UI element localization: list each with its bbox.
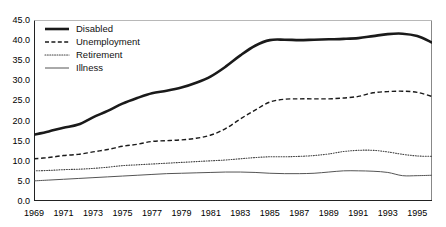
legend-key-disabled (44, 23, 70, 35)
y-tick-label: 30.0 (12, 76, 30, 85)
y-tick-label: 10.0 (12, 156, 30, 165)
series-line-unemployment (34, 91, 432, 159)
x-tick-label: 1971 (53, 209, 73, 218)
series-line-retirement (34, 150, 432, 171)
legend-key-illness (44, 62, 70, 74)
x-tick-label: 1991 (348, 209, 368, 218)
y-tick-label: 35.0 (12, 56, 30, 65)
legend-label-retirement: Retirement (76, 50, 122, 60)
legend-label-disabled: Disabled (76, 24, 113, 34)
x-tick-label: 1987 (289, 209, 309, 218)
x-tick-label: 1983 (230, 209, 250, 218)
y-tick-label: 40.0 (12, 36, 30, 45)
legend-key-unemployment (44, 36, 70, 48)
chart-figure: 0.05.010.015.020.025.030.035.040.045.0 1… (0, 0, 446, 227)
y-tick-label: 45.0 (12, 16, 30, 25)
x-tick-label: 1993 (378, 209, 398, 218)
legend-item-unemployment[interactable]: Unemployment (44, 35, 140, 48)
x-tick-label: 1995 (407, 209, 427, 218)
legend-label-unemployment: Unemployment (76, 37, 140, 47)
y-tick-label: 15.0 (12, 136, 30, 145)
legend-item-retirement[interactable]: Retirement (44, 48, 140, 61)
legend-item-disabled[interactable]: Disabled (44, 22, 140, 35)
legend-item-illness[interactable]: Illness (44, 61, 140, 74)
x-tick-label: 1981 (201, 209, 221, 218)
x-tick-label: 1969 (24, 209, 44, 218)
y-tick-label: 20.0 (12, 116, 30, 125)
y-tick-label: 5.0 (17, 176, 30, 185)
x-tick-label: 1989 (319, 209, 339, 218)
y-axis-tick-labels: 0.05.010.015.020.025.030.035.040.045.0 (0, 0, 30, 227)
legend-key-retirement (44, 49, 70, 61)
chart-legend: Disabled Unemployment Retirement Illness (44, 22, 140, 74)
x-tick-label: 1985 (260, 209, 280, 218)
y-tick-label: 25.0 (12, 96, 30, 105)
y-tick-label: 0.0 (17, 197, 30, 206)
x-tick-label: 1975 (112, 209, 132, 218)
series-line-illness (34, 171, 432, 181)
x-tick-label: 1979 (171, 209, 191, 218)
legend-label-illness: Illness (76, 63, 103, 73)
x-tick-label: 1973 (83, 209, 103, 218)
x-tick-label: 1977 (142, 209, 162, 218)
